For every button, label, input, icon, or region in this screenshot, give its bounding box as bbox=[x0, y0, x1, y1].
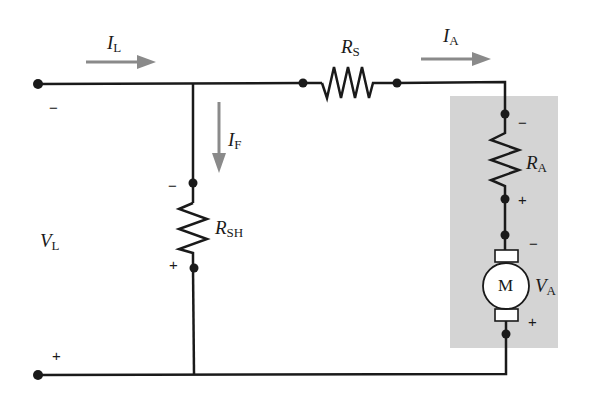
label-armature-voltage: VA bbox=[535, 276, 556, 297]
polarity-line-top: − bbox=[49, 100, 58, 115]
polarity-line-bottom: + bbox=[52, 348, 61, 363]
polarity-ra-bottom: + bbox=[518, 192, 527, 207]
polarity-shunt-top: − bbox=[168, 178, 177, 193]
current-arrow-il bbox=[86, 55, 156, 69]
label-armature-current: IA bbox=[443, 26, 459, 47]
motor-bottom-wire bbox=[38, 321, 506, 375]
label-series-resistor: RS bbox=[341, 37, 360, 58]
label-armature-resistor: RA bbox=[526, 153, 547, 174]
polarity-shunt-bottom: + bbox=[169, 257, 178, 272]
label-line-current: IL bbox=[107, 33, 121, 54]
circuit-canvas bbox=[0, 0, 593, 399]
node-dots bbox=[33, 79, 511, 381]
motor-brush-bottom bbox=[495, 309, 518, 321]
motor-label: M bbox=[498, 276, 513, 296]
shunt-resistor-rsh bbox=[179, 203, 207, 268]
series-resistor-rs bbox=[322, 67, 397, 98]
current-arrow-if bbox=[212, 102, 226, 173]
label-field-current: IF bbox=[228, 130, 242, 151]
motor-brush-top bbox=[495, 250, 518, 262]
current-arrow-ia bbox=[421, 52, 491, 66]
label-shunt-resistor: RSH bbox=[215, 218, 243, 239]
top-wire bbox=[38, 83, 322, 84]
polarity-va-bottom: + bbox=[528, 314, 537, 329]
label-line-voltage: VL bbox=[40, 231, 60, 252]
shunt-wire-bottom bbox=[193, 268, 194, 374]
polarity-va-top: − bbox=[529, 236, 538, 251]
polarity-ra-top: − bbox=[518, 115, 527, 130]
